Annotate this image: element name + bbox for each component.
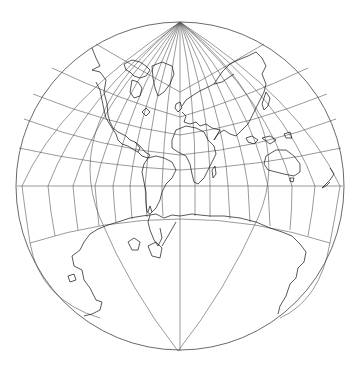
meridian (180, 22, 195, 216)
landmass-australia (264, 150, 300, 176)
meridian (113, 22, 180, 222)
graticule (16, 22, 344, 351)
landmass-antarctic-ice-shelf (68, 222, 176, 282)
world-map-projection (0, 0, 356, 366)
landmass-british-isles (175, 102, 182, 112)
landmass-new-zealand (322, 168, 334, 188)
landmass-southeast-asia-islands (246, 132, 292, 144)
meridian (180, 22, 315, 236)
meridian-south-left (30, 243, 100, 318)
meridian (95, 22, 180, 226)
landmass-tasmania (290, 178, 294, 182)
landmass-south-america (142, 156, 176, 214)
meridian (73, 22, 180, 230)
meridian (22, 22, 180, 243)
meridian-to-south-pole-right (178, 22, 269, 351)
meridian-south-right (280, 243, 330, 318)
landmass-japan (262, 92, 270, 110)
landmass-antarctic-peninsula (148, 206, 162, 246)
meridian (180, 22, 292, 230)
coastlines (68, 48, 334, 316)
landmass-antarctica (72, 214, 306, 316)
landmass-north-america (92, 48, 140, 152)
